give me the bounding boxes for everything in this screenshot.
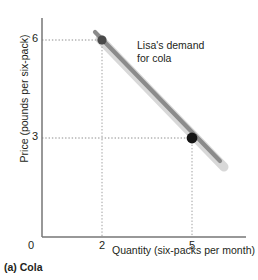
origin-label: 0 [28,240,34,252]
chart-plot-area [0,0,258,280]
figure-cola: 6 3 2 5 0 Price (pounds per six-pack) Qu… [0,0,258,280]
y-axis-title: Price (pounds per six-pack) [19,24,30,174]
data-point-2-6 [97,35,106,44]
demand-curve-annotation: Lisa's demand for cola [137,39,204,66]
demand-curve-annotation-line1: Lisa's demand [137,39,204,52]
x-tick-label-2: 2 [94,240,110,252]
figure-caption: (a) Cola [4,262,43,273]
data-point-5-3 [187,133,198,144]
demand-curve-annotation-line2: for cola [137,52,204,65]
x-axis-title: Quantity (six-packs per month) [112,245,255,256]
